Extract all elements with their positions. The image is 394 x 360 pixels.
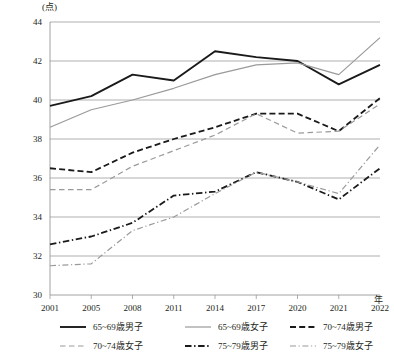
x-tick-label: 2021	[330, 303, 348, 313]
chart-container: 3032343638404244 (点) 2001200520082011201…	[0, 0, 394, 360]
x-axis-title: 年	[374, 294, 383, 305]
x-tick-label: 2008	[124, 303, 143, 313]
y-tick-label: 44	[33, 17, 43, 27]
y-tick-label: 40	[33, 95, 43, 105]
y-axis-tick-labels: 3032343638404244	[33, 17, 43, 300]
legend-label: 65~69歳男子	[93, 321, 143, 332]
x-tick-label: 2020	[289, 303, 308, 313]
y-tick-label: 38	[33, 134, 43, 144]
legend-label: 65~69歳女子	[218, 321, 268, 332]
x-tick-label: 2017	[247, 303, 266, 313]
legend-label: 75~79歳女子	[323, 340, 373, 351]
legend-label: 70~74歳女子	[93, 340, 143, 351]
x-axis-label-text: 年	[374, 294, 383, 305]
series-lines	[50, 38, 380, 266]
y-tick-label: 32	[33, 251, 42, 261]
series-line	[50, 104, 380, 190]
y-axis-unit-label: (点)	[42, 2, 57, 12]
x-axis-tick-labels: 200120052008201120142017202020212022	[41, 303, 389, 313]
y-tick-label: 36	[33, 173, 43, 183]
series-line	[50, 168, 380, 244]
x-tick-label: 2001	[41, 303, 59, 313]
x-tick-label: 2005	[82, 303, 101, 313]
x-tick-label: 2011	[165, 303, 183, 313]
y-tick-label: 34	[33, 212, 43, 222]
unit-label-text: (点)	[42, 2, 57, 12]
chart-legend: 65~69歳男子65~69歳女子70~74歳男子70~74歳女子75~79歳男子…	[60, 321, 373, 351]
series-line	[50, 145, 380, 266]
x-tick-label: 2014	[206, 303, 225, 313]
y-tick-label: 30	[33, 290, 43, 300]
legend-label: 70~74歳男子	[323, 321, 373, 332]
series-line	[50, 98, 380, 172]
line-chart: 3032343638404244 (点) 2001200520082011201…	[0, 0, 394, 360]
series-line	[50, 51, 380, 106]
legend-label: 75~79歳男子	[218, 340, 268, 351]
y-tick-label: 42	[33, 56, 42, 66]
